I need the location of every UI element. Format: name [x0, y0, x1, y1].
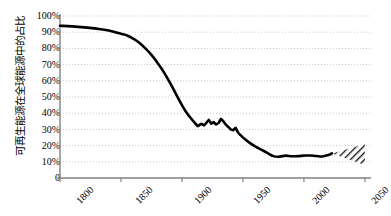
- axis-lines: [60, 14, 371, 178]
- gridlines: [60, 16, 371, 162]
- data-series-line: [60, 26, 332, 157]
